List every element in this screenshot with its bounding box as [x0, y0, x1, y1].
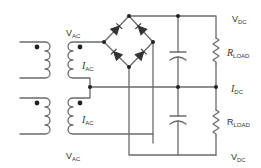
junction-dot — [176, 14, 180, 18]
polarity-dot — [78, 45, 83, 50]
transformer-bottom-secondary — [68, 87, 153, 134]
junction-dot — [127, 14, 131, 18]
polarity-dot — [78, 101, 83, 106]
label-iac-top: IAC — [82, 61, 94, 71]
diode-bridge — [104, 16, 153, 67]
polarity-dot — [35, 45, 40, 50]
resistor-load-bottom — [213, 110, 219, 136]
polarity-dot — [35, 101, 40, 106]
label-vac-bottom: VAC — [66, 152, 80, 161]
capacitor-bottom — [170, 87, 186, 155]
label-rload-bottom: RLOAD — [227, 118, 250, 127]
junction-dot — [176, 85, 180, 89]
diodes — [111, 23, 147, 60]
label-vdc-bottom: VDC — [231, 153, 246, 162]
label-idc: IDC — [231, 84, 243, 94]
junction-dot — [102, 40, 106, 44]
junction-dot — [127, 65, 131, 69]
label-iac-bottom: IAC — [82, 115, 94, 125]
circuit-diagram: VAC IAC IAC VAC VDC RLOAD IDC RLOAD VDC — [0, 0, 261, 168]
label-vac-top: VAC — [66, 29, 80, 38]
junction-dot — [214, 85, 218, 89]
junction-dot — [88, 85, 92, 89]
capacitor-top — [170, 16, 186, 87]
junction-dot — [151, 40, 155, 44]
wire-bottom-rail — [129, 67, 216, 155]
label-vdc-top: VDC — [232, 15, 247, 24]
resistor-load-top — [213, 38, 219, 64]
label-rload-top: RLOAD — [227, 48, 249, 58]
schematic — [0, 0, 261, 168]
